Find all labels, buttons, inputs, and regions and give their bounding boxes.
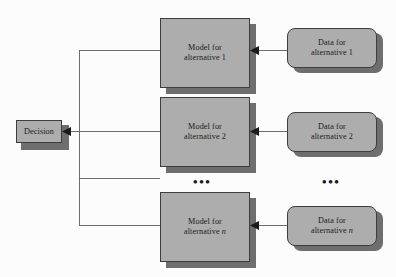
- arrowheads: [0, 0, 396, 277]
- arrowhead-into-decision: [62, 127, 71, 136]
- arrowhead-into-model-n: [250, 221, 259, 230]
- arrowhead-into-model-1: [250, 46, 259, 55]
- diagram-canvas: Decision Model for alternative 1 Model f…: [0, 0, 396, 277]
- arrowhead-into-model-2: [250, 127, 259, 136]
